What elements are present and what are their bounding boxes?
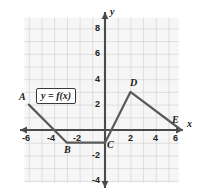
function-label-box: y = f(x)	[36, 88, 76, 104]
y-tick-label-neg2: -2	[92, 151, 100, 160]
y-tick-label-2: 2	[95, 100, 100, 109]
point-label-c: C	[107, 140, 114, 150]
coordinate-plane	[0, 0, 203, 193]
point-label-a: A	[19, 92, 26, 102]
y-tick-label-6: 6	[95, 49, 100, 58]
y-axis-label: y	[110, 7, 114, 17]
y-tick-label-8: 8	[95, 24, 100, 33]
x-tick-label-neg4: -4	[47, 134, 55, 143]
point-label-b: B	[64, 145, 71, 155]
x-tick-label-neg2: -2	[73, 134, 81, 143]
x-tick-label-4: 4	[153, 134, 158, 143]
x-tick-label-2: 2	[128, 134, 133, 143]
y-tick-label-4: 4	[95, 75, 100, 84]
x-tick-label-neg6: -6	[22, 134, 30, 143]
function-graph-figure: -6 -4 -2 2 4 6 8 6 4 2 -2 -4 y x A B C D…	[0, 0, 203, 193]
point-label-e: E	[172, 115, 179, 125]
x-tick-label-6: 6	[173, 134, 178, 143]
x-axis-label: x	[187, 119, 192, 129]
y-tick-label-neg4: -4	[92, 176, 100, 185]
point-label-d: D	[130, 78, 137, 88]
